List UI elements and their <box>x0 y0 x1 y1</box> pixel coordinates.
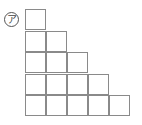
grid-cell <box>67 74 88 95</box>
grid-cell <box>109 95 130 116</box>
figure-label: ア <box>7 15 17 25</box>
grid-cell <box>46 95 67 116</box>
grid-cell <box>67 52 88 73</box>
grid-cell <box>25 52 46 73</box>
grid-cell <box>25 74 46 95</box>
grid-cell <box>25 31 46 52</box>
grid-cell <box>25 9 46 30</box>
grid-cell <box>46 74 67 95</box>
grid-cell <box>67 95 88 116</box>
grid-cell <box>88 95 109 116</box>
figure-label-circle: ア <box>4 12 19 27</box>
staircase-diagram: ア <box>0 0 142 125</box>
grid-cell <box>46 31 67 52</box>
grid-cell <box>88 74 109 95</box>
grid-cell <box>46 52 67 73</box>
grid-cell <box>25 95 46 116</box>
